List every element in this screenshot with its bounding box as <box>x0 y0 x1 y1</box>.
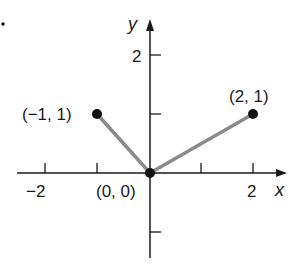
point-label-origin: (0, 0) <box>96 182 136 201</box>
point-label-2-1: (2, 1) <box>229 87 269 106</box>
y-tick-label-2: 2 <box>132 47 141 66</box>
x-arrow-icon <box>276 169 287 177</box>
y-axis-label: y <box>126 14 138 34</box>
segments <box>97 114 253 173</box>
coordinate-figure: y x 2 −2 2 (−1, 1) (0, 0) (2, 1) <box>0 0 305 271</box>
plot-svg: y x 2 −2 2 (−1, 1) (0, 0) (2, 1) <box>0 0 305 271</box>
point-neg1-1 <box>92 109 102 119</box>
point-origin <box>145 168 155 178</box>
point-label-neg1-1: (−1, 1) <box>22 105 72 124</box>
point-2-1 <box>248 109 258 119</box>
y-arrow-icon <box>146 19 154 31</box>
x-tick-label-neg2: −2 <box>26 182 45 201</box>
x-axis-label: x <box>274 180 285 200</box>
bullet-mark <box>1 22 5 26</box>
x-tick-label-2: 2 <box>247 182 256 201</box>
y-axis <box>146 19 161 258</box>
